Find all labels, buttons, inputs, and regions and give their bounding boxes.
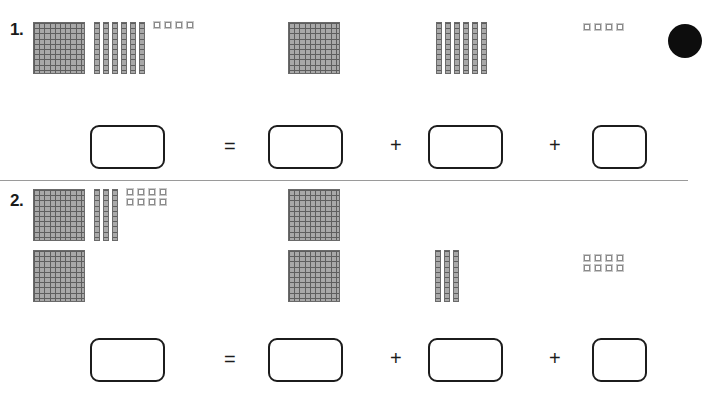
tens-rod-group (435, 250, 459, 302)
problem-2-hundreds-blocks (288, 189, 340, 302)
tens-rod (94, 189, 100, 241)
plus-sign-2: + (549, 348, 561, 368)
ones-unit (606, 255, 612, 261)
tens-rod (445, 22, 451, 74)
ones-unit (176, 22, 182, 28)
ones-unit (160, 199, 166, 205)
plus-sign-1: + (390, 348, 402, 368)
problem-1-number: 1. (10, 20, 23, 40)
hundreds-flat-group (33, 189, 85, 302)
page-edge-marker (668, 24, 702, 58)
ones-unit (160, 189, 166, 195)
problem-2-ones-blocks (584, 255, 623, 271)
problem-2-tens-answer-box[interactable] (428, 338, 503, 382)
problem-2-ones-answer-box[interactable] (592, 338, 647, 382)
ones-unit-group (584, 255, 623, 271)
tens-rod (463, 22, 469, 74)
problem-1-ones-blocks (584, 24, 623, 30)
problem-2: 2. (0, 181, 688, 395)
ones-unit (584, 255, 590, 261)
problem-2-equation: = + + (0, 331, 688, 389)
problem-1-tens-answer-box[interactable] (428, 125, 503, 169)
ones-unit (165, 22, 171, 28)
tens-rod (112, 22, 118, 74)
tens-rod (103, 189, 109, 241)
hundreds-flat (288, 189, 340, 241)
hundreds-flat (33, 22, 85, 74)
ones-unit (138, 199, 144, 205)
ones-unit (606, 24, 612, 30)
ones-unit (617, 24, 623, 30)
hundreds-flat (33, 189, 85, 241)
ones-unit-group (584, 24, 623, 30)
tens-rod (472, 22, 478, 74)
ones-unit (595, 265, 601, 271)
tens-rod (94, 22, 100, 74)
problem-2-left-blocks (33, 189, 166, 302)
hundreds-flat-group (288, 189, 340, 302)
tens-rod (454, 22, 460, 74)
tens-rod-group (94, 22, 145, 74)
hundreds-flat (288, 250, 340, 302)
ones-unit (138, 189, 144, 195)
ones-unit (595, 24, 601, 30)
problem-2-hundreds-answer-box[interactable] (268, 338, 343, 382)
ones-unit (584, 24, 590, 30)
tens-rod-group (94, 189, 118, 241)
ones-unit (595, 255, 601, 261)
plus-sign-2: + (549, 135, 561, 155)
ones-unit (584, 265, 590, 271)
hundreds-flat (33, 250, 85, 302)
tens-rod (436, 22, 442, 74)
problem-1-left-blocks (33, 22, 193, 74)
problem-1-total-answer-box[interactable] (90, 125, 165, 169)
problem-2-number: 2. (10, 191, 23, 211)
ones-unit-group (154, 22, 193, 28)
tens-rod (103, 22, 109, 74)
ones-unit (606, 265, 612, 271)
tens-rod (481, 22, 487, 74)
ones-unit (127, 199, 133, 205)
hundreds-flat (288, 22, 340, 74)
tens-rod (453, 250, 459, 302)
problem-1: 1. (0, 0, 688, 180)
problem-1-hundreds-blocks (288, 22, 340, 74)
problem-1-hundreds-answer-box[interactable] (268, 125, 343, 169)
tens-rod (435, 250, 441, 302)
problem-1-tens-blocks (436, 22, 487, 74)
equals-sign: = (224, 136, 236, 156)
tens-rod (121, 22, 127, 74)
tens-rod (444, 250, 450, 302)
equals-sign: = (224, 349, 236, 369)
ones-unit (149, 199, 155, 205)
plus-sign-1: + (390, 135, 402, 155)
ones-unit (617, 255, 623, 261)
ones-unit (617, 265, 623, 271)
ones-unit (149, 189, 155, 195)
ones-unit-group (127, 189, 166, 205)
ones-unit (187, 22, 193, 28)
tens-rod (130, 22, 136, 74)
problem-2-total-answer-box[interactable] (90, 338, 165, 382)
ones-unit (154, 22, 160, 28)
ones-unit (127, 189, 133, 195)
tens-rod-group (436, 22, 487, 74)
tens-rod (139, 22, 145, 74)
problem-1-ones-answer-box[interactable] (592, 125, 647, 169)
problem-1-equation: = + + (0, 118, 688, 176)
problem-2-tens-blocks (435, 250, 459, 302)
tens-rod (112, 189, 118, 241)
